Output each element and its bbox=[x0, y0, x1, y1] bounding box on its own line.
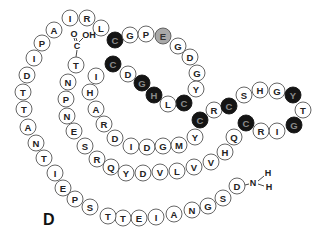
residue-letter: R bbox=[258, 126, 265, 137]
residue-letter: I bbox=[276, 126, 279, 137]
residue-letter: I bbox=[33, 53, 36, 64]
residue-letter: N bbox=[189, 205, 196, 216]
residue-y: Y bbox=[285, 87, 301, 103]
residue-letter: Y bbox=[123, 168, 130, 179]
residue-d: D bbox=[19, 67, 35, 83]
residue-v: V bbox=[186, 159, 202, 175]
residue-letter: C bbox=[112, 35, 119, 46]
residue-p: P bbox=[58, 91, 74, 107]
residue-t: T bbox=[36, 150, 52, 166]
residue-letter: P bbox=[143, 29, 150, 40]
residue-letter: C bbox=[226, 101, 233, 112]
residue-letter: Y bbox=[192, 132, 199, 143]
residue-m: M bbox=[171, 137, 187, 153]
residue-v: V bbox=[152, 164, 168, 180]
residue-h: H bbox=[82, 84, 98, 100]
residue-i: I bbox=[88, 68, 104, 84]
residue-p: P bbox=[138, 26, 154, 42]
residue-letter: E bbox=[60, 183, 66, 194]
residue-a: A bbox=[88, 101, 104, 117]
residue-p: P bbox=[34, 35, 50, 51]
residue-d: D bbox=[120, 66, 136, 82]
residue-letter: V bbox=[208, 157, 215, 168]
residue-g: G bbox=[134, 75, 150, 91]
residue-n: N bbox=[184, 202, 200, 218]
residue-g: G bbox=[155, 138, 171, 154]
residue-i: I bbox=[148, 209, 164, 225]
residue-d: D bbox=[135, 165, 151, 181]
residue-letter: I bbox=[69, 13, 72, 24]
residue-e: E bbox=[55, 180, 71, 196]
residue-r: R bbox=[253, 123, 269, 139]
residue-c: C bbox=[105, 56, 121, 72]
residue-q: Q bbox=[103, 159, 119, 175]
residue-letter: H bbox=[87, 87, 94, 98]
residue-e: E bbox=[155, 28, 171, 44]
residue-r: R bbox=[89, 151, 105, 167]
residue-letter: G bbox=[126, 30, 133, 41]
residue-letter: D bbox=[24, 70, 31, 81]
peptide-diagram: DSGNAIETTSPEITNATTDIPAIRLCGPEGDGYCLHGDCI… bbox=[0, 0, 327, 241]
residue-g: G bbox=[200, 198, 216, 214]
residue-letter: H bbox=[222, 147, 229, 158]
residue-y: Y bbox=[118, 165, 134, 181]
residue-t: T bbox=[16, 101, 32, 117]
nh-bond-bottom bbox=[258, 184, 264, 186]
residue-letter: Y bbox=[193, 84, 200, 95]
residue-g: G bbox=[269, 83, 285, 99]
residue-letter: A bbox=[171, 209, 178, 220]
residue-letter: T bbox=[21, 104, 27, 115]
residue-c: C bbox=[238, 115, 254, 131]
residue-d: D bbox=[182, 49, 198, 65]
residue-letter: D bbox=[187, 52, 194, 63]
residue-a: A bbox=[46, 22, 62, 38]
residue-letter: T bbox=[20, 87, 26, 98]
residue-l: L bbox=[169, 163, 185, 179]
residue-letter: A bbox=[51, 25, 58, 36]
residue-letter: C bbox=[110, 59, 117, 70]
residue-letter: N bbox=[65, 77, 72, 88]
residue-letter: D bbox=[140, 168, 147, 179]
residue-letter: I bbox=[95, 71, 98, 82]
residue-letter: E bbox=[136, 213, 142, 224]
residue-t: T bbox=[295, 102, 311, 118]
residue-g: G bbox=[189, 65, 205, 81]
residue-t: T bbox=[68, 57, 84, 73]
residue-g: G bbox=[286, 117, 302, 133]
residue-d: D bbox=[107, 130, 123, 146]
residue-letter: R bbox=[101, 119, 108, 130]
residue-n: N bbox=[28, 135, 44, 151]
residue-letter: R bbox=[211, 105, 218, 116]
residue-letter: C bbox=[181, 98, 188, 109]
residue-h: H bbox=[252, 82, 268, 98]
residue-letter: S bbox=[87, 202, 93, 213]
residue-c: C bbox=[192, 112, 208, 128]
residue-letter: T bbox=[105, 211, 111, 222]
residue-h: H bbox=[146, 87, 162, 103]
residue-letter: Y bbox=[290, 90, 297, 101]
residue-letter: G bbox=[174, 41, 181, 52]
residue-letter: Q bbox=[107, 162, 114, 173]
residue-d: D bbox=[139, 139, 155, 155]
residue-letter: N bbox=[64, 111, 71, 122]
residue-s: S bbox=[82, 199, 98, 215]
residue-letter: S bbox=[220, 193, 226, 204]
residue-letter: I bbox=[155, 212, 158, 223]
residue-e: E bbox=[66, 123, 82, 139]
residue-chain: DSGNAIETTSPEITNATTDIPAIRLCGPEGDGYCLHGDCI… bbox=[15, 10, 311, 226]
n-terminus-bond bbox=[245, 184, 249, 185]
residue-t: T bbox=[115, 210, 131, 226]
residue-letter: D bbox=[112, 133, 119, 144]
residue-letter: C bbox=[197, 115, 204, 126]
residue-d: D bbox=[229, 178, 245, 194]
residue-letter: D bbox=[234, 181, 241, 192]
residue-letter: I bbox=[130, 141, 133, 152]
residue-letter: D bbox=[125, 69, 132, 80]
residue-letter: L bbox=[98, 23, 104, 34]
residue-v: V bbox=[203, 154, 219, 170]
n-terminus-h1: H bbox=[265, 168, 272, 178]
n-terminus-h2: H bbox=[266, 182, 273, 192]
residue-letter: G bbox=[273, 86, 280, 97]
residue-letter: P bbox=[39, 38, 46, 49]
residue-letter: R bbox=[94, 154, 101, 165]
